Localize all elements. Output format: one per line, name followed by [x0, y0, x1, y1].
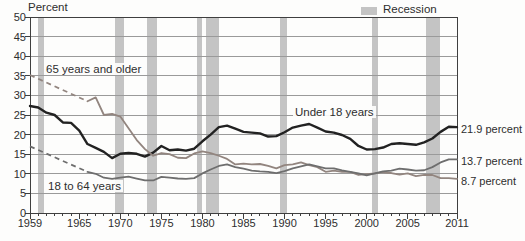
series-label-65-and-older: 65 years and older	[44, 63, 143, 75]
y-tick-label: 10	[0, 168, 26, 180]
x-tick-label: 2005	[391, 217, 425, 229]
end-value-18-to-64: 13.7 percent	[461, 155, 522, 167]
x-tick-label: 1985	[227, 217, 261, 229]
y-tick-label: 0	[0, 207, 26, 219]
x-tick-label: 1980	[185, 217, 219, 229]
x-tick-label: 1970	[103, 217, 137, 229]
y-tick-label: 15	[0, 148, 26, 160]
legend-label: Recession	[383, 3, 437, 15]
end-value-65-and-older: 8.7 percent	[461, 175, 516, 187]
y-tick-label: 45	[0, 31, 26, 43]
y-tick-label: 20	[0, 129, 26, 141]
y-tick-label: 25	[0, 109, 26, 121]
x-tick-label: 2011	[440, 217, 474, 229]
legend: Recession	[361, 3, 437, 15]
end-value-under-18: 21.9 percent	[461, 123, 522, 135]
y-axis-title: Percent	[28, 1, 68, 13]
series-label-under-18: Under 18 years	[293, 106, 376, 118]
x-tick-label: 1965	[62, 217, 96, 229]
y-tick-label: 30	[0, 89, 26, 101]
x-tick-label: 1975	[144, 217, 178, 229]
x-tick-label: 2000	[350, 217, 384, 229]
x-tick-label: 1990	[268, 217, 302, 229]
y-tick-label: 5	[0, 187, 26, 199]
series-line-0	[30, 106, 457, 158]
plot-area	[0, 0, 525, 241]
series-label-18-to-64: 18 to 64 years	[46, 180, 123, 192]
poverty-rates-by-age-chart: Percent Recession 65 years and older Und…	[0, 0, 525, 241]
y-tick-label: 40	[0, 50, 26, 62]
recession-swatch-icon	[361, 7, 377, 15]
series-line-1	[87, 97, 457, 179]
series-line-2	[87, 159, 457, 180]
y-tick-label: 50	[0, 11, 26, 23]
x-tick-label: 1995	[309, 217, 343, 229]
y-tick-label: 35	[0, 70, 26, 82]
